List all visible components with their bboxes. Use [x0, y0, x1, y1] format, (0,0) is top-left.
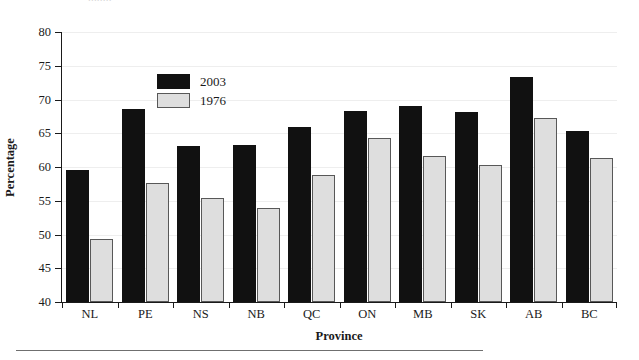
- legend-entry-2003: 2003: [157, 74, 226, 89]
- y-axis-tick: [55, 302, 62, 303]
- x-axis-tick-label: BC: [581, 308, 598, 321]
- bar-AB-1976: [534, 118, 557, 302]
- y-axis-tick: [55, 268, 62, 269]
- chart-legend: 2003 1976: [157, 74, 226, 108]
- x-axis-tick-label: MB: [413, 308, 432, 321]
- bar-QC-2003: [288, 127, 311, 302]
- bar-PE-2003: [122, 109, 145, 302]
- x-axis-tick: [284, 302, 285, 308]
- x-axis-tick: [340, 302, 341, 308]
- bar-NB-2003: [233, 145, 256, 302]
- y-axis-tick: [55, 167, 62, 168]
- y-axis-tick: [55, 201, 62, 202]
- bar-PE-1976: [146, 183, 169, 302]
- y-axis-tick-label: 75: [39, 60, 52, 73]
- bar-NS-2003: [177, 146, 200, 302]
- plot-area: 404550556065707580NLPENSNBQCONMBSKABBC 2…: [61, 32, 617, 303]
- legend-entry-1976: 1976: [157, 93, 226, 108]
- x-axis-tick-label: ON: [358, 308, 376, 321]
- legend-swatch-1976-icon: [157, 93, 190, 108]
- y-axis-tick-label: 55: [39, 195, 52, 208]
- y-axis-tick: [55, 100, 62, 101]
- gridline: [62, 32, 617, 33]
- bar-NL-1976: [90, 239, 113, 302]
- x-axis-tick-label: AB: [525, 308, 542, 321]
- y-axis-tick: [55, 66, 62, 67]
- x-axis-tick-label: PE: [138, 308, 153, 321]
- legend-label-1976: 1976: [200, 94, 226, 107]
- x-axis-tick: [506, 302, 507, 308]
- bar-chart-figure: Percentage 404550556065707580NLPENSNBQCO…: [0, 0, 639, 360]
- x-axis-tick-label: NS: [193, 308, 209, 321]
- x-axis-tick: [395, 302, 396, 308]
- x-axis-tick: [229, 302, 230, 308]
- bar-QC-1976: [312, 175, 335, 302]
- y-axis-tick-label: 70: [39, 93, 52, 106]
- x-axis-tick: [451, 302, 452, 308]
- gridline: [62, 66, 617, 67]
- bar-MB-1976: [423, 156, 446, 302]
- bar-BC-1976: [590, 158, 613, 302]
- x-axis-tick: [616, 302, 617, 308]
- bar-NL-2003: [66, 170, 89, 302]
- y-axis-tick: [55, 235, 62, 236]
- x-axis-title: Province: [61, 329, 617, 344]
- bar-AB-2003: [510, 77, 533, 302]
- y-axis-tick-label: 60: [39, 161, 52, 174]
- legend-swatch-2003-icon: [157, 74, 190, 89]
- bar-SK-2003: [455, 112, 478, 302]
- y-axis-title: Percentage: [2, 32, 18, 303]
- y-axis-tick-label: 45: [39, 262, 52, 275]
- bar-SK-1976: [479, 165, 502, 302]
- page-bottom-rule: [16, 350, 483, 351]
- bar-ON-2003: [344, 111, 367, 302]
- x-axis-tick: [173, 302, 174, 308]
- y-axis-title-label: Percentage: [3, 138, 18, 197]
- y-axis-tick-label: 40: [39, 296, 52, 309]
- y-axis-tick: [55, 32, 62, 33]
- bar-MB-2003: [399, 106, 422, 302]
- x-axis-tick-label: NL: [81, 308, 98, 321]
- y-axis-tick-label: 50: [39, 228, 52, 241]
- y-axis-tick-label: 65: [39, 127, 52, 140]
- bar-NB-1976: [257, 208, 280, 302]
- x-axis-tick: [562, 302, 563, 308]
- bar-NS-1976: [201, 198, 224, 302]
- gridline: [62, 100, 617, 101]
- x-axis-tick-label: NB: [248, 308, 265, 321]
- x-axis-tick: [118, 302, 119, 308]
- x-axis-tick-label: SK: [470, 308, 486, 321]
- plot-inner: 404550556065707580NLPENSNBQCONMBSKABBC: [62, 32, 617, 302]
- bar-BC-2003: [566, 131, 589, 302]
- x-axis-tick-label: QC: [303, 308, 320, 321]
- legend-label-2003: 2003: [200, 75, 226, 88]
- y-axis-tick-label: 80: [39, 26, 52, 39]
- y-axis-tick: [55, 133, 62, 134]
- x-axis-tick: [62, 302, 63, 308]
- bar-ON-1976: [368, 138, 391, 302]
